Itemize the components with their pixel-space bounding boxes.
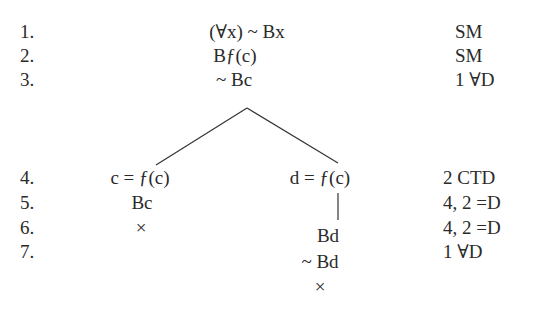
line-number: 1. bbox=[20, 21, 34, 43]
line-number: 2. bbox=[20, 45, 34, 67]
formula: Bƒ(c) bbox=[213, 45, 256, 67]
line-number: 5. bbox=[20, 192, 34, 214]
formula: (∀x) ~ Bx bbox=[209, 21, 285, 43]
justification: 4, 2 =D bbox=[443, 217, 501, 239]
justification: 1 ∀D bbox=[443, 241, 482, 263]
line-number: 7. bbox=[20, 241, 34, 263]
left-branch-formula: c = ƒ(c) bbox=[110, 167, 169, 189]
formula: ~ Bc bbox=[216, 69, 252, 91]
left-branch-line bbox=[156, 108, 247, 165]
right-branch-formula: Bd bbox=[317, 225, 339, 247]
line-number: 6. bbox=[20, 217, 34, 239]
line-number: 3. bbox=[20, 69, 34, 91]
closed-branch-mark: × bbox=[315, 276, 326, 298]
left-branch-formula: Bc bbox=[131, 192, 152, 214]
closed-branch-mark: × bbox=[136, 217, 147, 239]
right-branch-formula: ~ Bd bbox=[301, 251, 338, 273]
justification: 1 ∀D bbox=[455, 69, 494, 91]
justification: 4, 2 =D bbox=[443, 192, 501, 214]
justification: SM bbox=[455, 45, 482, 67]
justification: SM bbox=[455, 21, 482, 43]
right-branch-line bbox=[247, 108, 338, 163]
justification: 2 CTD bbox=[443, 167, 495, 189]
line-number: 4. bbox=[20, 167, 34, 189]
right-branch-formula: d = ƒ(c) bbox=[290, 167, 350, 189]
